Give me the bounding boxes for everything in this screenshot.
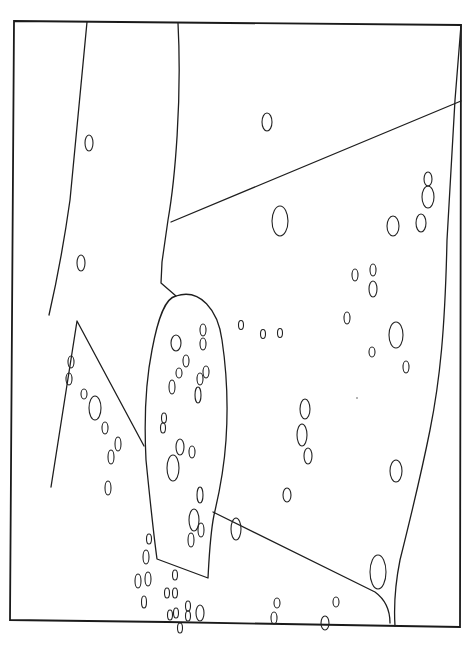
speck: [356, 397, 358, 399]
specks: [356, 397, 358, 399]
cell-region-diagram: [0, 0, 469, 664]
diagram-canvas: [0, 0, 469, 664]
